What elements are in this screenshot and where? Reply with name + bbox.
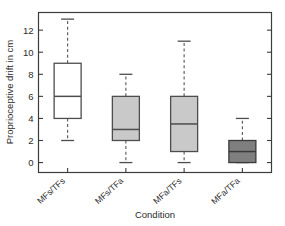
x-axis-title: Condition [135,209,175,220]
y-tick-label: 0 [28,157,33,168]
y-tick-label: 10 [23,47,34,58]
x-axis-category-labels: MFs/TFsMFs/TFaMFa/TFsMFa/TFa [35,175,242,206]
x-category-label: MFs/TFs [35,176,67,206]
x-category-label: MFa/TFa [209,175,242,206]
y-tick-label: 2 [28,135,33,146]
box-iqr-rect [112,96,139,140]
y-tick-label: 12 [23,25,34,36]
x-category-label: MFa/TFs [151,176,183,206]
y-tick-label: 4 [28,113,33,124]
x-category-label: MFs/TFa [93,175,125,206]
box-iqr-rect [54,63,81,118]
y-axis-title: Proprioceptive drift in cm [4,40,15,145]
y-tick-label: 8 [28,69,33,80]
boxplot-figure: 024681012 MFs/TFsMFs/TFaMFa/TFsMFa/TFa P… [0,0,285,226]
y-tick-label: 6 [28,91,33,102]
y-axis-tick-labels: 024681012 [23,25,34,168]
chart-canvas: 024681012 MFs/TFsMFs/TFaMFa/TFsMFa/TFa P… [0,0,285,226]
